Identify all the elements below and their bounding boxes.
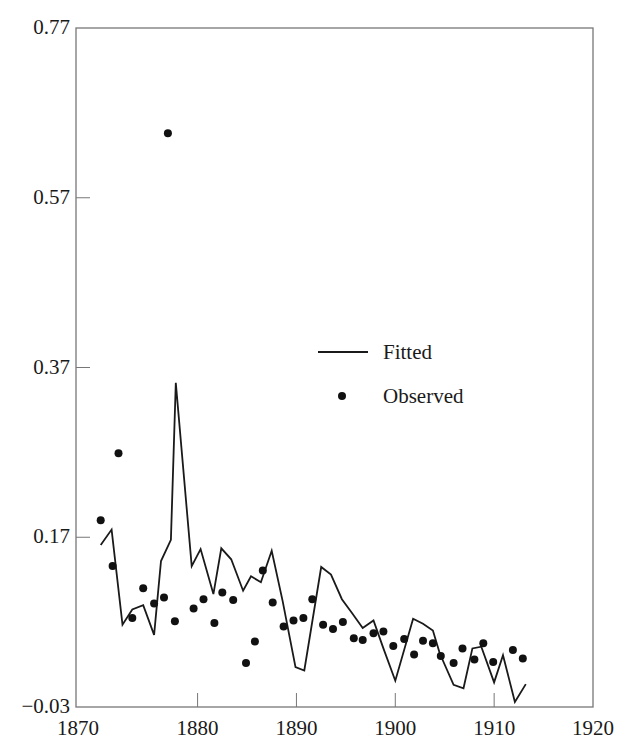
observed-point (251, 638, 259, 646)
observed-point (171, 617, 179, 625)
x-tick-label: 1910 (454, 718, 534, 739)
observed-point (229, 596, 237, 604)
y-tick-label: 0.57 (0, 187, 70, 208)
x-tick-label: 1900 (355, 718, 435, 739)
y-tick-label: 0.37 (0, 357, 70, 378)
observed-point (242, 659, 250, 667)
observed-point (200, 595, 208, 603)
legend-label-observed: Observed (383, 386, 463, 407)
observed-point (419, 637, 427, 645)
observed-point (359, 636, 367, 644)
x-tick-label: 1870 (38, 718, 118, 739)
y-tick-label: −0.03 (0, 696, 70, 717)
observed-point (218, 588, 226, 596)
legend-dot-swatch (338, 392, 346, 400)
observed-point (509, 646, 517, 654)
observed-point (280, 622, 288, 630)
observed-point (164, 129, 172, 137)
observed-point (109, 562, 117, 570)
x-tick-label: 1880 (158, 718, 238, 739)
observed-point (115, 449, 123, 457)
observed-point (429, 639, 437, 647)
observed-point (410, 650, 418, 658)
observed-point (259, 566, 267, 574)
observed-point (290, 616, 298, 624)
observed-point (400, 635, 408, 643)
observed-point (97, 516, 105, 524)
observed-point (299, 614, 307, 622)
legend-label-fitted: Fitted (383, 342, 432, 363)
observed-point (269, 599, 277, 607)
observed-point (339, 618, 347, 626)
observed-point (450, 659, 458, 667)
observed-point (379, 628, 387, 636)
x-tick-label: 1920 (553, 718, 631, 739)
y-tick-label: 0.17 (0, 526, 70, 547)
observed-point (210, 619, 218, 627)
fitted-series-line (101, 383, 526, 702)
x-tick-label: 1890 (256, 718, 336, 739)
observed-point (519, 655, 527, 663)
observed-point (459, 644, 467, 652)
observed-point (370, 629, 378, 637)
observed-point (437, 652, 445, 660)
observed-point (128, 614, 136, 622)
observed-point (489, 658, 497, 666)
observed-point (190, 605, 198, 613)
observed-point (329, 625, 337, 633)
observed-point (389, 642, 397, 650)
observed-point (470, 656, 478, 664)
observed-point (350, 634, 358, 642)
plot-area (0, 0, 631, 756)
chart-container: −0.030.170.370.570.77 187018801890190019… (0, 0, 631, 756)
observed-point (319, 621, 327, 629)
observed-point (150, 600, 158, 608)
observed-point (308, 595, 316, 603)
observed-point (139, 584, 147, 592)
y-tick-label: 0.77 (0, 17, 70, 38)
observed-point (479, 639, 487, 647)
observed-point (160, 594, 168, 602)
